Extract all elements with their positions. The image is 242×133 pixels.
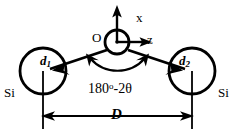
angle-label: 180o-2θ bbox=[88, 82, 132, 96]
bond-length-label-left: d1 bbox=[40, 54, 51, 69]
bond-length-label-right: d2 bbox=[179, 54, 190, 69]
x-axis-label: x bbox=[136, 11, 143, 24]
angle-arc bbox=[90, 58, 145, 71]
figure-root: x z O d1 d2 Si Si 180o-2θ D bbox=[0, 0, 242, 133]
atom-label-right: Si bbox=[218, 86, 229, 99]
atom-label-left: Si bbox=[4, 86, 15, 99]
origin-point bbox=[115, 40, 119, 44]
angle-remainder: -2θ bbox=[114, 81, 132, 96]
angle-value: 180 bbox=[88, 81, 109, 96]
distance-label-D: D bbox=[111, 107, 122, 122]
origin-label: O bbox=[92, 31, 101, 44]
z-axis-label: z bbox=[147, 33, 153, 46]
bond-length-subscript-left: 1 bbox=[47, 59, 52, 69]
bond-length-subscript-right: 2 bbox=[186, 59, 191, 69]
